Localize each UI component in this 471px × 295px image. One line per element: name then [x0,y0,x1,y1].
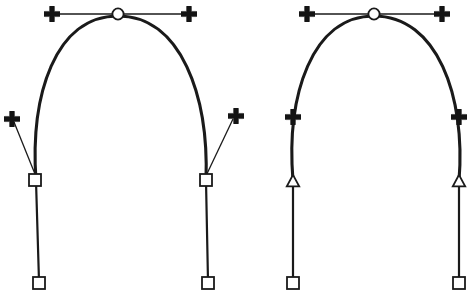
left-side-handle-leg-right [204,119,233,180]
left-apex-handle-left-cross-icon[interactable] [42,4,61,23]
right-arch-curve[interactable] [292,16,460,181]
right-direction-marker-right-triangle-icon[interactable] [453,175,465,187]
right-apex-anchor-circle-icon[interactable] [368,8,379,19]
right-side-anchor-right-cross-icon[interactable] [449,107,468,126]
right-end-anchor-left-square-icon[interactable] [287,277,299,289]
right-direction-marker-left-triangle-icon[interactable] [287,175,299,187]
vector-illustration-canvas [0,0,471,295]
right-shape-group[interactable] [283,4,468,289]
left-shape-group[interactable] [2,4,245,289]
right-apex-handle-left-cross-icon[interactable] [297,4,316,23]
left-end-anchor-left-square-icon[interactable] [33,277,45,289]
right-side-anchor-left-cross-icon[interactable] [283,107,302,126]
left-side-handle-left-cross-icon[interactable] [2,109,21,128]
left-side-anchor-right-square-icon[interactable] [200,174,212,186]
left-arch-curve[interactable] [35,16,206,181]
left-side-anchor-left-square-icon[interactable] [29,174,41,186]
left-leg-right[interactable] [206,181,208,281]
left-end-anchor-right-square-icon[interactable] [202,277,214,289]
left-leg-left[interactable] [36,181,39,281]
right-apex-handle-right-cross-icon[interactable] [432,4,451,23]
right-end-anchor-right-square-icon[interactable] [453,277,465,289]
left-apex-handle-right-cross-icon[interactable] [179,4,198,23]
left-side-handle-right-cross-icon[interactable] [226,106,245,125]
bezier-diagram-svg [0,0,471,295]
left-apex-anchor-circle-icon[interactable] [112,8,123,19]
